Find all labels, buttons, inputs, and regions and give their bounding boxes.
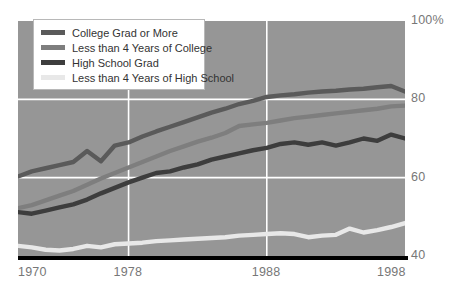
x-tick-label: 1978 [114, 265, 143, 279]
line-chart: 100%806040 1970197819881998 College Grad… [0, 0, 452, 295]
legend-color-swatch [41, 60, 65, 65]
x-tick-label: 1998 [377, 265, 406, 279]
y-tick-label: 80 [411, 91, 425, 105]
legend-item: College Grad or More [41, 25, 198, 40]
legend-item: Less than 4 Years of High School [41, 70, 198, 85]
x-axis-baseline [18, 256, 408, 260]
legend-item-label: College Grad or More [72, 27, 178, 39]
chart-legend: College Grad or MoreLess than 4 Years of… [33, 19, 205, 90]
x-tick-label: 1970 [18, 265, 47, 279]
legend-color-swatch [41, 75, 65, 80]
x-tick-label: 1988 [252, 265, 281, 279]
legend-item-label: High School Grad [72, 57, 159, 69]
legend-item-label: Less than 4 Years of High School [72, 72, 234, 84]
series-lines [18, 86, 405, 251]
y-tick-label: 60 [411, 170, 425, 184]
series-line [18, 223, 405, 250]
y-tick-label: 100% [411, 13, 444, 27]
legend-item-label: Less than 4 Years of College [72, 42, 212, 54]
series-line [18, 106, 405, 209]
y-tick-label: 40 [411, 248, 425, 262]
legend-item: High School Grad [41, 55, 198, 70]
legend-color-swatch [41, 30, 65, 35]
series-line [18, 135, 405, 214]
legend-item: Less than 4 Years of College [41, 40, 198, 55]
legend-color-swatch [41, 45, 65, 50]
